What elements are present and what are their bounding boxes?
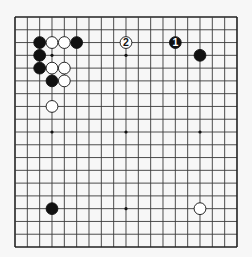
star-point xyxy=(50,54,53,57)
stone-black xyxy=(71,37,83,49)
stone-black xyxy=(194,49,206,61)
stone-black xyxy=(34,49,46,61)
stones: 21 xyxy=(34,36,206,214)
stone-white xyxy=(46,62,58,74)
star-point xyxy=(124,207,127,210)
stone-black xyxy=(34,37,46,49)
black-stone xyxy=(46,75,58,87)
stone-white xyxy=(58,62,70,74)
stone-white xyxy=(58,37,70,49)
move-number-label: 2 xyxy=(123,36,129,48)
stone-black xyxy=(34,62,46,74)
white-stone xyxy=(58,62,70,74)
white-stone xyxy=(46,101,58,113)
white-stone-2: 2 xyxy=(120,36,132,48)
black-stone xyxy=(34,49,46,61)
white-stone xyxy=(58,37,70,49)
stone-black xyxy=(46,203,58,215)
black-stone xyxy=(34,37,46,49)
white-stone xyxy=(194,203,206,215)
black-stone xyxy=(46,203,58,215)
star-point xyxy=(50,130,53,133)
stone-white xyxy=(46,101,58,113)
white-stone xyxy=(46,62,58,74)
stone-white xyxy=(194,203,206,215)
black-stone xyxy=(194,49,206,61)
stone-white xyxy=(58,75,70,87)
star-point xyxy=(198,130,201,133)
white-stone xyxy=(58,75,70,87)
black-stone xyxy=(34,62,46,74)
white-stone xyxy=(46,37,58,49)
star-point xyxy=(124,54,127,57)
black-stone xyxy=(71,37,83,49)
stone-black xyxy=(46,75,58,87)
go-board: 21 xyxy=(0,0,252,257)
star-point xyxy=(124,130,127,133)
move-number-label: 1 xyxy=(172,36,178,48)
stone-white xyxy=(46,37,58,49)
black-stone-1: 1 xyxy=(169,36,181,48)
